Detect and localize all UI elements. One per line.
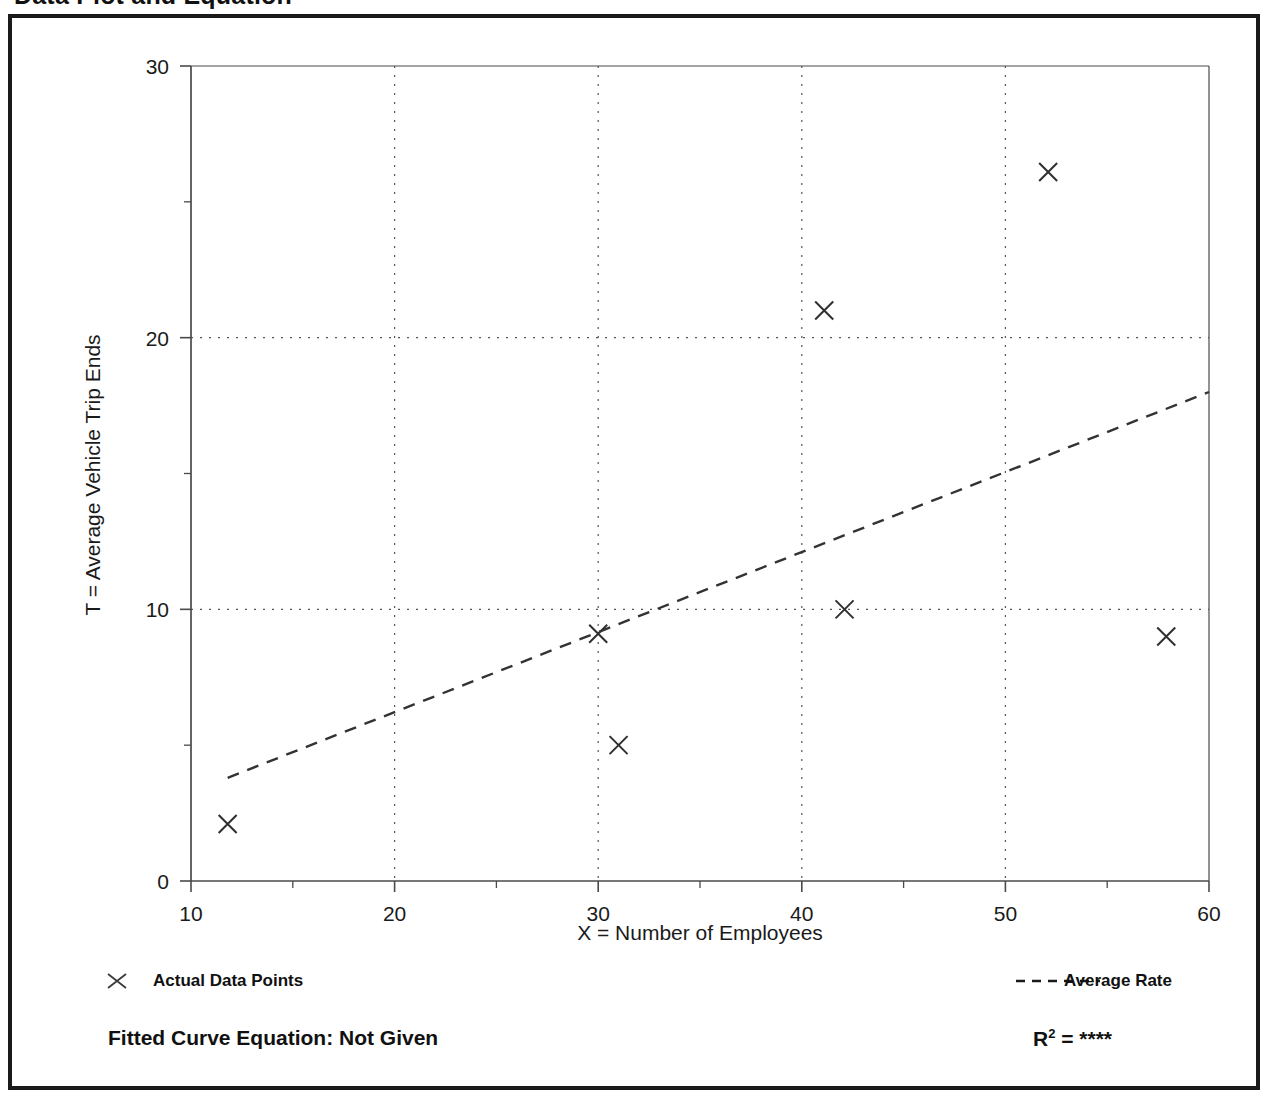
average-rate-line [228,392,1209,778]
chart-legend: Actual Data Points Average Rate [95,963,1180,999]
x-axis-title: X = Number of Employees [191,921,1209,945]
y-axis-title: T = Average Vehicle Trip Ends [81,68,105,883]
data-point-marker [1157,628,1175,646]
legend-label-average-rate: Average Rate [1064,971,1172,991]
data-point-marker [1039,163,1057,181]
equation-row: Fitted Curve Equation: Not Given R2 = **… [95,1026,1180,1066]
r-squared-equals: = [1055,1027,1079,1050]
fitted-curve-equation: Fitted Curve Equation: Not Given [108,1026,438,1050]
legend-item-average-rate: Average Rate [1014,963,1172,999]
r-squared-value: R2 = **** [1033,1026,1112,1051]
data-point-marker [589,625,607,643]
data-point-marker [815,302,833,320]
r-squared-stars: **** [1079,1027,1112,1050]
legend-label-actual-data-points: Actual Data Points [153,971,303,991]
y-tick-label: 20 [146,327,169,350]
y-tick-label: 0 [157,870,169,893]
y-tick-label: 10 [146,598,169,621]
x-marker-icon [103,969,137,993]
data-point-marker [610,736,628,754]
legend-item-actual-data-points: Actual Data Points [103,963,303,999]
data-point-marker [219,815,237,833]
data-point-marker [836,600,854,618]
dashed-line-icon [1014,969,1048,993]
r-squared-symbol: R [1033,1027,1048,1050]
y-tick-label: 30 [146,55,169,78]
